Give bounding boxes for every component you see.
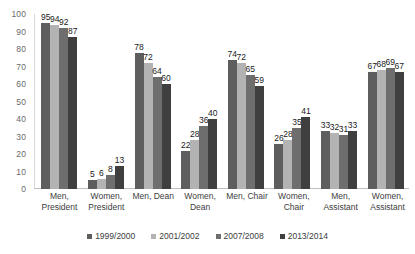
bar[interactable] — [348, 131, 357, 189]
bar-slot: 5 — [88, 14, 97, 189]
bar[interactable] — [59, 28, 68, 189]
bar-slot: 65 — [246, 14, 255, 189]
bar[interactable] — [41, 23, 50, 189]
bar-slot: 36 — [199, 14, 208, 189]
bar-slot: 59 — [255, 14, 264, 189]
bar-slot: 32 — [330, 14, 339, 189]
bar[interactable] — [144, 63, 153, 189]
bar[interactable] — [274, 144, 283, 190]
bar-slot: 40 — [208, 14, 217, 189]
bar[interactable] — [321, 131, 330, 189]
x-axis-category-label: Men, Assistant — [317, 191, 364, 225]
bar-group: 26283541 — [269, 14, 316, 189]
bar[interactable] — [377, 70, 386, 189]
bar-slot: 64 — [153, 14, 162, 189]
x-axis-category-label: Men, Chair — [224, 191, 271, 225]
bar-slot: 31 — [339, 14, 348, 189]
bar-slot: 35 — [292, 14, 301, 189]
bar-value-label: 67 — [387, 62, 411, 71]
bar-slot: 41 — [301, 14, 310, 189]
legend-swatch-icon — [87, 234, 92, 239]
bar[interactable] — [106, 175, 115, 189]
y-axis-tick-label: 50 — [16, 97, 26, 107]
bar-group: 56813 — [83, 14, 130, 189]
bar-groups: 9594928756813787264602228364074726559262… — [36, 14, 409, 189]
x-axis-category-label: Men, President — [36, 191, 83, 225]
bar-slot: 22 — [181, 14, 190, 189]
bar[interactable] — [68, 37, 77, 189]
bar[interactable] — [162, 84, 171, 189]
bar[interactable] — [246, 75, 255, 189]
bar[interactable] — [330, 133, 339, 189]
bar-group: 67686967 — [362, 14, 409, 189]
bar-group: 22283640 — [176, 14, 223, 189]
bar-group: 33323133 — [316, 14, 363, 189]
bar[interactable] — [153, 77, 162, 189]
bar-slot: 33 — [321, 14, 330, 189]
legend-item[interactable]: 1999/2000 — [87, 231, 135, 241]
bar-slot: 67 — [368, 14, 377, 189]
bar[interactable] — [88, 180, 97, 189]
legend-swatch-icon — [216, 234, 221, 239]
y-axis-tick-label: 0 — [21, 184, 26, 194]
bar-slot: 68 — [377, 14, 386, 189]
y-axis-tick-label: 20 — [16, 149, 26, 159]
bar[interactable] — [395, 72, 404, 189]
x-axis-category-label: Women, Dean — [177, 191, 224, 225]
x-axis-category-label: Women, Assistant — [364, 191, 411, 225]
bar-value-label: 40 — [201, 109, 225, 118]
bar[interactable] — [255, 86, 264, 189]
bar-group: 78726460 — [129, 14, 176, 189]
bar[interactable] — [97, 179, 106, 190]
legend-label: 1999/2000 — [95, 231, 135, 241]
bar[interactable] — [199, 126, 208, 189]
legend-item[interactable]: 2001/2002 — [151, 231, 199, 241]
bar[interactable] — [283, 140, 292, 189]
y-axis-tick-label: 70 — [16, 62, 26, 72]
bar-group: 74726559 — [223, 14, 270, 189]
bar-slot: 72 — [144, 14, 153, 189]
bar[interactable] — [237, 63, 246, 189]
bar-slot: 78 — [135, 14, 144, 189]
legend-item[interactable]: 2013/2014 — [280, 231, 328, 241]
bar-slot: 95 — [41, 14, 50, 189]
bar-slot: 92 — [59, 14, 68, 189]
bar-slot: 87 — [68, 14, 77, 189]
bar[interactable] — [208, 119, 217, 189]
x-axis: Men, PresidentWomen, PresidentMen, DeanW… — [36, 191, 411, 225]
y-axis-line — [34, 14, 35, 189]
bar[interactable] — [190, 140, 199, 189]
bar[interactable] — [368, 72, 377, 189]
bar[interactable] — [228, 60, 237, 190]
legend-label: 2007/2008 — [224, 231, 264, 241]
bar[interactable] — [50, 25, 59, 190]
bar[interactable] — [292, 128, 301, 189]
legend-item[interactable]: 2007/2008 — [216, 231, 264, 241]
bar[interactable] — [135, 53, 144, 190]
bar-value-label: 13 — [107, 156, 131, 165]
bar-slot: 69 — [386, 14, 395, 189]
bar[interactable] — [301, 117, 310, 189]
bar-slot: 26 — [274, 14, 283, 189]
legend-label: 2001/2002 — [159, 231, 199, 241]
bar-slot: 13 — [115, 14, 124, 189]
bar[interactable] — [115, 166, 124, 189]
y-axis-tick-label: 40 — [16, 114, 26, 124]
legend-label: 2013/2014 — [288, 231, 328, 241]
bar[interactable] — [181, 151, 190, 190]
bar[interactable] — [339, 135, 348, 189]
bar-slot: 6 — [97, 14, 106, 189]
y-axis-tick-label: 80 — [16, 44, 26, 54]
bar-slot: 28 — [283, 14, 292, 189]
legend-swatch-icon — [151, 234, 156, 239]
x-axis-category-label: Men, Dean — [130, 191, 177, 225]
bar-value-label: 59 — [247, 76, 271, 85]
bar[interactable] — [386, 68, 395, 189]
x-axis-category-label: Women, President — [83, 191, 130, 225]
y-axis-tick-label: 90 — [16, 27, 26, 37]
bar-value-label: 41 — [294, 107, 318, 116]
bar-slot: 28 — [190, 14, 199, 189]
bar-slot: 94 — [50, 14, 59, 189]
bar-slot: 60 — [162, 14, 171, 189]
bar-chart: 1009080706050403020100 95949287568137872… — [0, 0, 415, 254]
